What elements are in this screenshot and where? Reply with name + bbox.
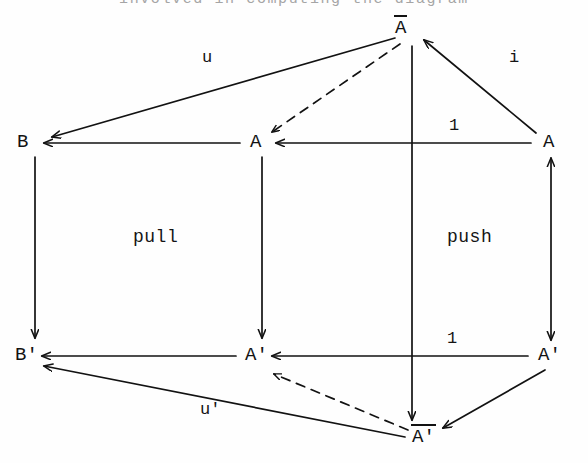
edge-label-i: i (509, 49, 519, 66)
node-a-prime-right: A' (538, 346, 561, 365)
edge-u (52, 38, 395, 137)
edge-dashed-top (272, 44, 400, 132)
region-label-push: push (447, 228, 492, 246)
node-b-top: B (17, 133, 28, 152)
edge-label-u-prime: u' (200, 401, 220, 418)
commutative-diagram-canvas (0, 0, 588, 463)
region-label-pull: pull (133, 228, 178, 246)
edge-label-one-top: 1 (449, 117, 459, 134)
diagram-page: involved in computing the diagram (0, 0, 588, 463)
node-a-bar-prime-bottom: A' (412, 428, 435, 447)
node-a-mid-right: A (543, 133, 554, 152)
node-a-bar-top-label: A (395, 19, 406, 38)
node-a-bar-prime-bottom-label: A' (412, 428, 435, 447)
edge-label-u: u (202, 49, 212, 66)
edge-u-prime (44, 366, 405, 437)
node-a-bar-top: A (395, 19, 406, 38)
edge-dashed-bottom (274, 374, 408, 430)
edge-label-one-bottom: 1 (447, 330, 457, 347)
node-a-mid-center: A (250, 133, 261, 152)
node-a-prime-center: A' (245, 346, 268, 365)
node-b-prime: B' (15, 346, 38, 365)
edge-i-prime (443, 370, 545, 428)
